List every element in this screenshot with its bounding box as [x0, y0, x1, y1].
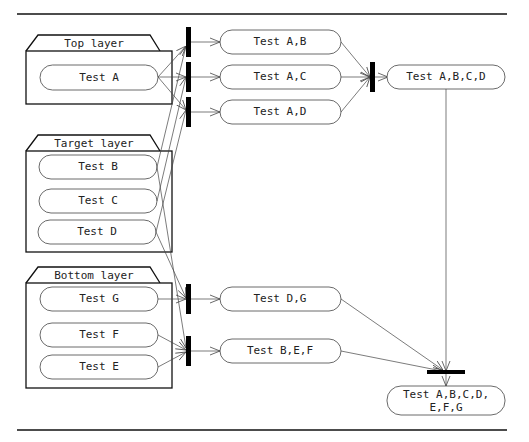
sync-bar-ad: [186, 97, 191, 127]
edges-to-abcd: [341, 42, 388, 112]
layer-bottom: Bottom layer Test G Test F Test E: [26, 267, 172, 388]
test-label: Test A,B,C,D: [406, 70, 485, 83]
test-label: Test G: [79, 292, 119, 305]
sync-bar-bef: [186, 336, 191, 366]
test-label: E,F,G: [429, 401, 462, 414]
test-label: Test E: [79, 360, 119, 373]
sync-bar-abcd: [370, 62, 375, 92]
test-label: Test A: [79, 71, 119, 84]
sync-bar-ac: [186, 62, 191, 92]
test-label: Test D: [77, 225, 117, 238]
test-label: Test B,E,F: [247, 344, 313, 357]
test-label: Test A,D: [254, 105, 307, 118]
layer-label: Target layer: [54, 137, 134, 150]
layer-label: Top layer: [64, 37, 124, 50]
layer-target: Target layer Test B Test C Test D: [26, 135, 172, 252]
test-label: Test A,C: [254, 70, 307, 83]
edges-bars-to-nodes: [191, 42, 220, 351]
test-label: Test A,B,C,D,: [403, 388, 489, 401]
test-label: Test F: [79, 328, 119, 341]
test-label: Test C: [78, 194, 118, 207]
sync-bar-ab: [186, 27, 191, 57]
test-label: Test D,G: [254, 292, 307, 305]
test-label: Test B: [78, 160, 118, 173]
layer-label: Bottom layer: [54, 269, 134, 282]
test-label: Test A,B: [254, 35, 307, 48]
layer-top: Top layer Test A: [26, 35, 172, 104]
sync-bar-dg: [186, 284, 191, 314]
sync-bar-final: [427, 370, 465, 374]
edges-to-final: [341, 89, 446, 386]
